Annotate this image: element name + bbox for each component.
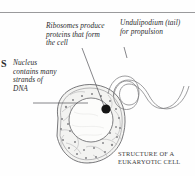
ribosome-dot	[101, 104, 110, 113]
margin-text-fragment: S	[1, 58, 7, 69]
figure-caption-line-2: Eukaryotic cell	[118, 158, 192, 166]
figure-caption: Structure of a Eukaryotic cell	[118, 150, 192, 165]
figure-caption-line-1: Structure of a	[118, 150, 192, 158]
callout-ribosomes: Ribosomes produce proteins that form the…	[46, 22, 108, 48]
callout-nucleus: Nucleus contains many strands of DNA	[13, 59, 59, 93]
leader-undulipodium	[124, 47, 127, 58]
callout-undulipodium: Undulipodium (tail) for propulsion	[120, 19, 182, 36]
cell-body-group	[57, 84, 125, 164]
figure-page: Ribosomes produce proteins that form the…	[0, 0, 195, 176]
